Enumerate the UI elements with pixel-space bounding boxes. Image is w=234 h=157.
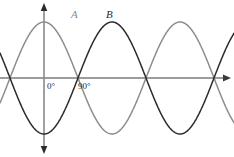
plot-canvas <box>0 0 234 157</box>
quarter-angle-label: 90° <box>78 82 91 91</box>
horizontal-axis <box>0 75 231 82</box>
curve-a-label: A <box>71 9 78 20</box>
horizontal-axis-arrow-icon <box>223 75 231 82</box>
vertical-axis-up-arrow-icon <box>41 3 48 11</box>
sine-wave-figure: A B 0° 90° <box>0 0 234 157</box>
curve-b-label: B <box>106 9 113 20</box>
vertical-axis-down-arrow-icon <box>41 146 48 154</box>
origin-angle-label: 0° <box>47 82 55 91</box>
